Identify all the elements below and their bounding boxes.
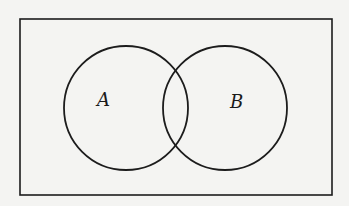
set-b-circle (163, 46, 287, 170)
universal-set-rectangle (20, 19, 332, 195)
set-b-label: B (229, 91, 243, 112)
venn-diagram: A B (0, 0, 349, 206)
set-a-circle (64, 46, 188, 170)
set-a-label: A (95, 89, 110, 110)
